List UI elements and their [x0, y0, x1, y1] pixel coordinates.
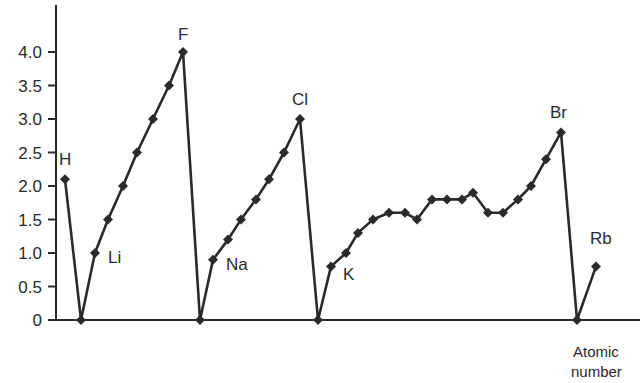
point-label-h: H: [59, 150, 71, 169]
point-label-k: K: [343, 265, 355, 284]
y-tick-label: 2.0: [18, 177, 42, 196]
point-label-na: Na: [226, 255, 248, 274]
series-line: [65, 52, 596, 320]
diamond-marker-kr: [572, 315, 582, 325]
diamond-marker-be: [103, 215, 113, 225]
diamond-marker-ar: [313, 315, 323, 325]
data-series: [60, 47, 601, 325]
y-ticks: 00.51.01.52.02.53.03.54.0: [18, 43, 56, 330]
y-tick-label: 1.5: [18, 211, 42, 230]
diamond-marker-c: [132, 148, 142, 158]
diamond-marker-s: [279, 148, 289, 158]
diamond-marker-b: [118, 181, 128, 191]
point-label-f: F: [178, 25, 188, 44]
diamond-marker-se: [541, 154, 551, 164]
point-labels: HLiFNaClKBrRb: [59, 25, 612, 284]
diamond-marker-rb: [591, 261, 601, 271]
diamond-marker-f: [178, 47, 188, 57]
diamond-marker-v: [384, 208, 394, 218]
point-label-rb: Rb: [590, 229, 612, 248]
x-axis-label-line2: number: [571, 363, 622, 380]
diamond-marker-o: [164, 81, 174, 91]
diamond-marker-he: [76, 315, 86, 325]
diamond-marker-h: [60, 174, 70, 184]
diamond-marker-cr: [400, 208, 410, 218]
diamond-marker-li: [90, 248, 100, 258]
diamond-marker-ne: [195, 315, 205, 325]
y-tick-label: 1.0: [18, 244, 42, 263]
y-tick-label: 4.0: [18, 43, 42, 62]
y-tick-label: 3.0: [18, 110, 42, 129]
y-tick-label: 0: [33, 311, 42, 330]
point-label-li: Li: [108, 248, 121, 267]
x-axis-label: Atomic: [573, 343, 619, 360]
electronegativity-chart: 00.51.01.52.02.53.03.54.0 HLiFNaClKBrRb …: [0, 0, 644, 383]
diamond-marker-n: [148, 114, 158, 124]
diamond-marker-co: [442, 194, 452, 204]
point-label-br: Br: [550, 103, 567, 122]
y-tick-label: 2.5: [18, 144, 42, 163]
y-tick-label: 0.5: [18, 278, 42, 297]
point-label-cl: Cl: [292, 90, 308, 109]
diamond-marker-br: [556, 127, 566, 137]
y-tick-label: 3.5: [18, 77, 42, 96]
diamond-marker-cl: [295, 114, 305, 124]
